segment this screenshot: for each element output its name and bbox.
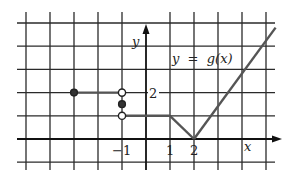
x-axis-label: x [244,139,252,154]
x-axis-arrow-icon [272,136,282,143]
closed-point [71,89,78,96]
tick-label-x-neg1: −1 [112,143,131,158]
y-axis-label: y [131,34,140,49]
open-point [118,89,125,96]
curve-segment [170,116,194,139]
graph-figure: y x y = g(x) −1 1 2 2 [0,0,291,173]
y-axis-arrow-icon [143,24,150,34]
tick-label-x-1: 1 [166,143,174,158]
tick-label-x-2: 2 [190,143,198,158]
curve-segment [194,28,276,139]
graph-canvas: y x y = g(x) −1 1 2 2 [0,0,291,173]
function-curve [74,28,276,139]
open-point [118,112,125,119]
closed-point [119,101,126,108]
function-label: y = g(x) [171,51,233,66]
tick-label-y-2: 2 [149,86,157,101]
